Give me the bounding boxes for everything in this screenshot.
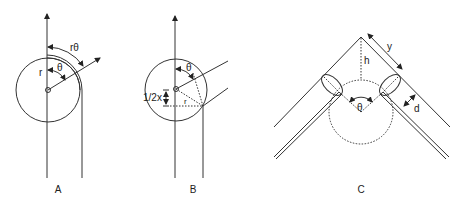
string-wrap-inner (47, 58, 80, 90)
physics-diagram: r θ rθ A 1/2x θ r B (0, 0, 466, 204)
upper-ray (176, 61, 228, 89)
label-theta: θ (57, 62, 63, 73)
panel-label-c: C (357, 184, 364, 195)
label-y: y (387, 41, 392, 52)
inner-left-line-1 (274, 92, 339, 157)
label-theta: θ (357, 102, 363, 113)
panel-label-b: B (190, 184, 197, 195)
panel-a: r θ rθ A (16, 14, 100, 195)
panel-label-a: A (55, 184, 62, 195)
y-length-arrow (368, 34, 402, 69)
panel-b: 1/2x θ r B (143, 16, 228, 195)
right-ellipse (376, 71, 404, 99)
left-ellipse (318, 71, 346, 99)
string-wrap (47, 55, 82, 178)
label-r: r (184, 97, 187, 106)
inner-right-line-2 (380, 94, 446, 159)
label-r: r (39, 67, 43, 78)
label-h: h (364, 55, 370, 66)
circle (145, 59, 207, 121)
radial-arrow (48, 58, 100, 90)
label-r-theta: rθ (70, 42, 79, 53)
label-theta: θ (186, 62, 192, 73)
inner-right-line-1 (383, 92, 449, 157)
panel-c: y h θ d C (274, 34, 450, 195)
label-half-x: 1/2x (143, 92, 162, 103)
label-d: d (414, 103, 420, 114)
